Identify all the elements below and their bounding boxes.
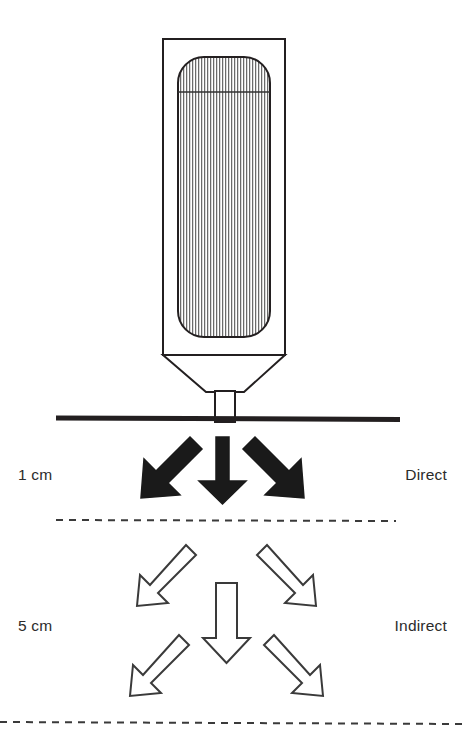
label-direct-distance: 1 cm	[18, 466, 52, 483]
label-indirect-distance: 5 cm	[18, 617, 52, 634]
probe-device	[163, 39, 285, 422]
contact-surface-line	[56, 418, 400, 420]
probe-inner-element	[178, 57, 270, 337]
figure-root: 1 cm Direct 5 cm Indirect	[0, 0, 465, 734]
label-indirect-mode: Indirect	[395, 617, 448, 634]
ultrasound-application-diagram: 1 cm Direct 5 cm Indirect	[0, 0, 465, 734]
label-direct-mode: Direct	[405, 466, 447, 483]
